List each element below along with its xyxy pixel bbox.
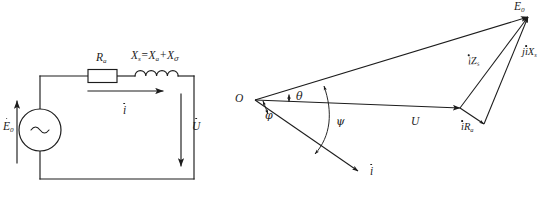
inductor-symbol	[135, 71, 178, 76]
phasor-jix-prefix: ji	[522, 47, 528, 58]
emf-symbol: E	[3, 121, 10, 133]
phasor-iz-subscript: s	[477, 59, 480, 66]
phasor-iz-label: iZs	[468, 56, 480, 67]
phasor-origin-label: O	[235, 93, 243, 105]
phasor-emf-symbol: E	[514, 1, 521, 13]
resistor-symbol	[88, 70, 117, 83]
phasor-current-symbol: i	[370, 166, 373, 178]
resistor-label: Ra	[96, 52, 107, 64]
circuit-current-label: i	[123, 105, 126, 117]
angle-psi-label: ψ	[336, 116, 345, 127]
reactance-sub2: a	[156, 55, 160, 63]
circuit-terminal-voltage-label: U	[192, 121, 200, 133]
angle-theta-label: θ	[296, 91, 303, 102]
figure-root: E0 Ra Xs=Xa+Xσ i U O E0 U i iZs iRa jiXs…	[0, 0, 550, 197]
reactance-label: Xs=Xa+Xσ	[131, 50, 179, 62]
phasor-iz-prefix: i	[468, 56, 472, 67]
phasor-ir-label: iRa	[461, 122, 474, 133]
reactance-equals: =	[141, 49, 149, 61]
resistor-symbol-text: R	[96, 51, 103, 63]
phasor-current-label: i	[370, 166, 373, 178]
circuit-emf-label: E0	[3, 121, 14, 133]
phasor-jix-subscript: s	[534, 51, 537, 58]
emf-subscript: 0	[10, 126, 14, 134]
ac-source-symbol	[19, 109, 61, 151]
resistor-subscript: a	[103, 57, 107, 65]
phasor-ir-subscript: a	[470, 126, 473, 133]
phasor-emf-subscript: 0	[521, 6, 525, 14]
phasor-jix-label: jiXs	[522, 47, 537, 58]
current-symbol: i	[123, 105, 126, 117]
reactance-plus: +	[159, 49, 167, 61]
reactance-sub1: s	[138, 55, 141, 63]
reactance-sub3: σ	[174, 54, 179, 63]
reactance-x1: X	[131, 49, 138, 61]
reactance-x3: X	[167, 49, 174, 61]
phasor-emf-label: E0	[514, 1, 525, 13]
terminal-voltage-symbol: U	[192, 121, 200, 133]
phasor-voltage-label: U	[411, 116, 419, 128]
phasor-ir-prefix: i	[461, 122, 464, 133]
figure-canvas	[0, 0, 550, 197]
reactance-x2: X	[149, 49, 156, 61]
angle-phi-label: φ	[265, 110, 273, 121]
